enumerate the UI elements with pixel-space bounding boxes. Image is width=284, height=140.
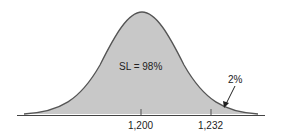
tick-label-mean: 1,200 bbox=[128, 120, 153, 131]
service-level-label: SL = 98% bbox=[119, 61, 162, 72]
tail-percent-label: 2% bbox=[228, 74, 242, 85]
tail-arrow-line bbox=[226, 86, 235, 104]
tick-label-threshold: 1,232 bbox=[198, 120, 223, 131]
